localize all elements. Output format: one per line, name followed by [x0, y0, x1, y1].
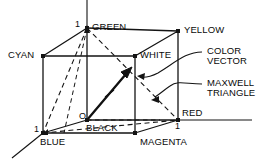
label-cyan: CYAN [8, 50, 34, 60]
vertex-dot-yellow [176, 29, 180, 33]
blue-axis-line [12, 133, 43, 158]
label-red: RED [182, 108, 202, 118]
label-yellow: YELLOW [184, 25, 224, 35]
label-green: GREEN [92, 22, 126, 32]
annotation-maxwell-triangle-line2: TRIANGLE [207, 88, 255, 98]
vertex-dot-blue [41, 131, 45, 135]
vertex-dot-white [133, 54, 137, 58]
color-vector-shaft [87, 74, 126, 120]
vertex-dot-green [85, 26, 89, 30]
edge-black-blue [43, 120, 87, 133]
color-vector-arrow [87, 67, 132, 120]
color-vector-leader-arrowhead [137, 73, 145, 80]
vertex-dot-magenta [133, 131, 137, 135]
color-vector-tick [105, 90, 114, 97]
label-white: WHITE [140, 50, 171, 60]
label-black: BLACK [86, 123, 118, 133]
tick-red-one: 1 [175, 122, 180, 131]
tick-blue-one: 1 [34, 125, 39, 134]
maxwell-edge-green-red [87, 28, 178, 120]
label-magenta: MAGENTA [140, 137, 187, 147]
vertex-dot-cyan [41, 54, 45, 58]
edge-green-cyan [43, 28, 87, 56]
tick-green-one: 1 [75, 20, 80, 29]
label-origin: O [79, 112, 86, 121]
rgb-color-cube-figure: GREEN YELLOW CYAN WHITE BLACK RED BLUE M… [0, 0, 270, 167]
cube-edges [43, 28, 178, 133]
label-blue: BLUE [40, 137, 65, 147]
annotation-color-vector-line2: VECTOR [207, 56, 247, 66]
